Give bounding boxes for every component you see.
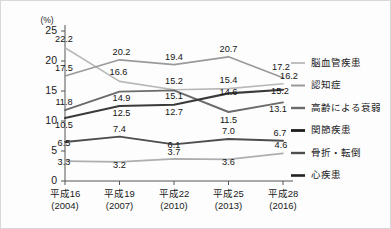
point-label-4-4: 6.7 <box>274 128 287 138</box>
x-tick-label: 平成28 <box>268 188 299 199</box>
x-tick-label: (2013) <box>215 200 242 211</box>
point-label-0-4: 16.2 <box>280 71 298 81</box>
point-label-5-2: 3.7 <box>168 147 181 157</box>
x-tick-label: (2007) <box>106 200 133 211</box>
point-label-5-0: 3.3 <box>58 157 71 167</box>
chart-canvas: (%)0510152025平成16(2004)平成19(2007)平成22(20… <box>1 1 391 229</box>
legend-label-3: 関節疾患 <box>311 124 351 135</box>
legend-item-2[interactable]: 高齢による衰弱 <box>291 102 381 113</box>
x-tick-label: (2010) <box>160 200 187 211</box>
point-label-4-1: 7.4 <box>113 124 126 134</box>
x-tick-label: (2016) <box>269 200 296 211</box>
legend-item-4[interactable]: 骨折・転倒 <box>291 147 361 158</box>
point-label-2-2: 15.1 <box>165 91 183 101</box>
legend: 脳血管疾患認知症高齢による衰弱関節疾患骨折・転倒心疾患 <box>291 57 381 181</box>
point-label-5-1: 3.2 <box>113 160 126 170</box>
legend-label-4: 骨折・転倒 <box>311 147 361 158</box>
point-label-3-1: 12.5 <box>113 108 131 118</box>
point-label-3-4: 15.2 <box>271 86 289 96</box>
point-label-3-3: 14.6 <box>220 87 238 97</box>
point-label-4-3: 7.0 <box>222 126 235 136</box>
point-label-2-4: 13.1 <box>269 104 287 114</box>
y-tick-label: 15 <box>45 84 57 96</box>
legend-item-0[interactable]: 脳血管疾患 <box>291 57 361 68</box>
y-tick-label: 5 <box>51 144 57 156</box>
x-tick-label: 平成19 <box>104 188 135 199</box>
point-label-2-1: 14.9 <box>113 93 131 103</box>
y-tick-label: 0 <box>51 174 57 186</box>
legend-label-1: 認知症 <box>311 79 341 90</box>
point-label-2-3: 11.5 <box>220 115 237 125</box>
point-label-3-2: 12.7 <box>165 107 183 117</box>
point-label-2-0: 11.8 <box>55 97 72 107</box>
legend-item-1[interactable]: 認知症 <box>291 79 341 90</box>
point-label-5-3: 3.6 <box>222 157 235 167</box>
point-label-1-3: 20.7 <box>220 44 238 54</box>
point-label-1-1: 20.2 <box>113 47 131 57</box>
legend-item-3[interactable]: 関節疾患 <box>291 124 351 135</box>
point-label-5-4: 4.6 <box>275 140 288 150</box>
point-label-0-2: 15.2 <box>165 76 183 86</box>
point-label-1-4: 17.2 <box>272 62 290 72</box>
point-label-0-1: 16.6 <box>110 67 128 77</box>
legend-label-5: 心疾患 <box>311 169 341 180</box>
line-chart: (%)0510152025平成16(2004)平成19(2007)平成22(20… <box>1 1 391 229</box>
point-label-3-0: 10.5 <box>55 120 73 130</box>
point-label-1-0: 17.5 <box>55 63 73 73</box>
point-label-4-0: 6.5 <box>58 138 71 148</box>
chart-root: (%)0510152025平成16(2004)平成19(2007)平成22(20… <box>0 0 391 229</box>
legend-label-2: 高齢による衰弱 <box>311 102 381 113</box>
x-tick-label: 平成25 <box>213 188 244 199</box>
point-label-1-2: 19.4 <box>165 52 183 62</box>
legend-label-0: 脳血管疾患 <box>311 57 361 68</box>
x-tick-label: 平成22 <box>159 188 190 199</box>
point-label-0-0: 22.2 <box>55 34 73 44</box>
x-tick-label: 平成16 <box>50 188 81 199</box>
x-tick-label: (2004) <box>51 200 78 211</box>
legend-item-5[interactable]: 心疾患 <box>291 169 341 180</box>
point-label-0-3: 15.4 <box>220 75 238 85</box>
